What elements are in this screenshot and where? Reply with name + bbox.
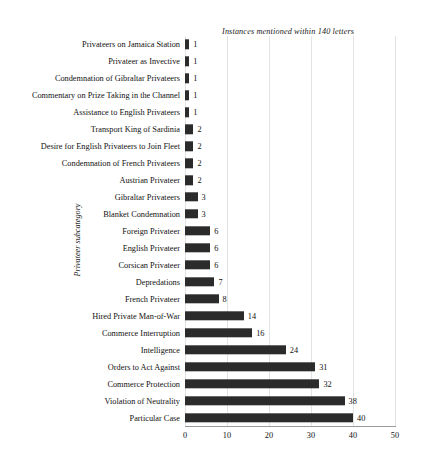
bar-row: Hired Private Man-of-War14: [185, 307, 395, 324]
bar-row: Austrian Privateer2: [185, 172, 395, 189]
category-label: Blanket Condemnation: [103, 210, 180, 219]
category-label: Orders to Act Against: [108, 362, 180, 371]
bar-row: Privateers on Jamaica Station1: [185, 36, 395, 53]
bar-value-label: 32: [323, 379, 331, 388]
category-label: Commentary on Prize Taking in the Channe…: [32, 91, 180, 100]
x-tick-label: 0: [183, 431, 187, 440]
bar-value-label: 6: [214, 243, 218, 252]
bar-value-label: 2: [197, 142, 201, 151]
gridline: [395, 36, 396, 426]
category-label: Depredations: [136, 277, 180, 286]
bar: [185, 362, 315, 371]
bar-row: Privateer as Invective1: [185, 53, 395, 70]
bar-row: Condemnation of Gibraltar Privateers1: [185, 70, 395, 87]
category-label: Privateer as Invective: [108, 57, 180, 66]
bar-value-label: 6: [214, 260, 218, 269]
bar-row: Assistance to English Privateers1: [185, 104, 395, 121]
bar: [185, 226, 210, 235]
bar: [185, 57, 189, 66]
category-label: Intelligence: [141, 345, 180, 354]
bar-row: French Privateer8: [185, 290, 395, 307]
bar-chart: Instances mentioned within 140 letters P…: [0, 0, 426, 470]
category-label: Privateers on Jamaica Station: [82, 40, 180, 49]
bar-value-label: 1: [193, 40, 197, 49]
category-label: English Privateer: [123, 243, 180, 252]
category-label: Desire for English Privateers to Join Fl…: [41, 142, 180, 151]
bar-value-label: 3: [202, 193, 206, 202]
bar: [185, 294, 219, 303]
bar-value-label: 31: [319, 362, 327, 371]
plot-area: Privateers on Jamaica Station1Privateer …: [185, 36, 395, 426]
bar-row: Commerce Protection32: [185, 375, 395, 392]
category-label: Commerce Interruption: [102, 328, 180, 337]
bar-value-label: 2: [197, 176, 201, 185]
bar-row: Gibraltar Privateers3: [185, 189, 395, 206]
category-label: Corsican Privateer: [118, 260, 180, 269]
bar: [185, 91, 189, 100]
category-label: Particular Case: [130, 413, 180, 422]
bar: [185, 345, 286, 354]
category-label: French Privateer: [125, 294, 180, 303]
x-tick-label: 30: [307, 431, 315, 440]
bar: [185, 158, 193, 167]
bar: [185, 413, 353, 422]
bar-row: Commerce Interruption16: [185, 324, 395, 341]
bar: [185, 328, 252, 337]
x-tick-label: 40: [349, 431, 357, 440]
x-tick-label: 50: [391, 431, 399, 440]
chart-title: Instances mentioned within 140 letters: [222, 27, 354, 36]
bar-row: Orders to Act Against31: [185, 358, 395, 375]
category-label: Gibraltar Privateers: [115, 193, 180, 202]
bar: [185, 74, 189, 83]
x-tick-label: 10: [223, 431, 231, 440]
bar-value-label: 24: [290, 345, 298, 354]
x-tick-label: 20: [265, 431, 273, 440]
bar-row: Commentary on Prize Taking in the Channe…: [185, 87, 395, 104]
bar: [185, 209, 198, 218]
bar-value-label: 16: [256, 328, 264, 337]
bar: [185, 311, 244, 320]
bar-row: Violation of Neutrality38: [185, 392, 395, 409]
category-label: Violation of Neutrality: [104, 396, 180, 405]
bar: [185, 192, 198, 201]
category-label: Hired Private Man-of-War: [92, 311, 180, 320]
bar-value-label: 6: [214, 226, 218, 235]
category-label: Condemnation of French Privateers: [62, 159, 180, 168]
bar-value-label: 1: [193, 74, 197, 83]
category-label: Austrian Privateer: [119, 176, 180, 185]
bar: [185, 260, 210, 269]
bar-row: Particular Case40: [185, 409, 395, 426]
bar: [185, 396, 345, 405]
bar: [185, 40, 189, 49]
y-axis-title: Privateer subcategory: [73, 180, 82, 300]
bar: [185, 142, 193, 151]
bar-value-label: 2: [197, 159, 201, 168]
bar-row: Intelligence24: [185, 341, 395, 358]
category-label: Transport King of Sardinia: [91, 125, 180, 134]
category-label: Foreign Privateer: [122, 226, 180, 235]
bar-value-label: 38: [349, 396, 357, 405]
bar: [185, 175, 193, 184]
bar-value-label: 7: [218, 277, 222, 286]
bar-value-label: 1: [193, 91, 197, 100]
bar: [185, 379, 319, 388]
category-label: Condemnation of Gibraltar Privateers: [55, 74, 180, 83]
bar-value-label: 8: [223, 294, 227, 303]
x-axis-line: [185, 426, 396, 427]
bar: [185, 108, 189, 117]
bar-value-label: 2: [197, 125, 201, 134]
bar-value-label: 1: [193, 108, 197, 117]
bar-value-label: 40: [357, 413, 365, 422]
category-label: Commerce Protection: [107, 379, 180, 388]
bar-row: English Privateer6: [185, 239, 395, 256]
category-label: Assistance to English Privateers: [73, 108, 180, 117]
bar-value-label: 14: [248, 311, 256, 320]
bar: [185, 243, 210, 252]
bar: [185, 125, 193, 134]
bar-row: Corsican Privateer6: [185, 256, 395, 273]
bar: [185, 277, 214, 286]
bar-row: Foreign Privateer6: [185, 223, 395, 240]
bar-value-label: 3: [202, 210, 206, 219]
bar-row: Condemnation of French Privateers2: [185, 155, 395, 172]
bar-row: Depredations7: [185, 273, 395, 290]
